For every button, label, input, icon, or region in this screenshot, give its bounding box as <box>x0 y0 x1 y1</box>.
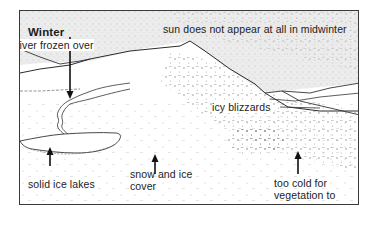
label-lakes: solid ice lakes <box>28 178 95 190</box>
label-snow-cover: snow and ice cover <box>130 168 193 192</box>
label-sun: sun does not appear at all in midwinter <box>162 23 348 35</box>
label-snow-cover-line2: cover <box>130 180 193 192</box>
label-snow-cover-line1: snow and ice <box>130 168 193 180</box>
label-blizzards: icy blizzards <box>212 101 270 113</box>
label-vegetation: too cold for vegetation to grow <box>274 177 335 205</box>
diagram-frame: Winter sun does not appear at all in mid… <box>19 10 359 205</box>
label-river: river frozen over <box>19 39 94 51</box>
label-vegetation-line2: vegetation to <box>274 189 335 201</box>
label-vegetation-line3: grow <box>274 201 335 205</box>
diagram-title: Winter <box>28 26 64 38</box>
label-vegetation-line1: too cold for <box>274 177 335 189</box>
